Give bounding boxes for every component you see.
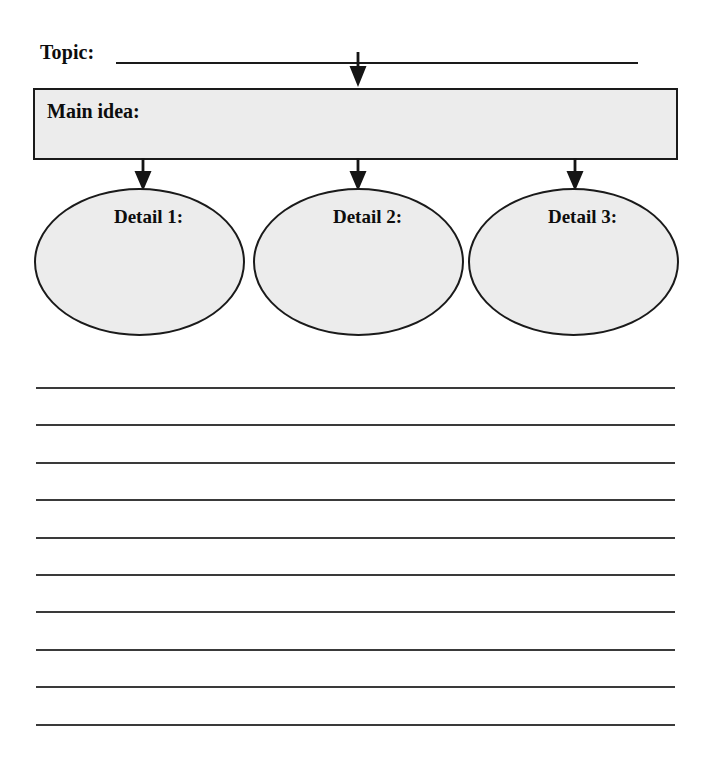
arrow-main-idea-to-detail-2 <box>343 158 373 192</box>
writing-line[interactable] <box>36 387 675 389</box>
writing-line[interactable] <box>36 499 675 501</box>
writing-line[interactable] <box>36 724 675 726</box>
detail-ellipse-3[interactable]: Detail 3: <box>468 188 679 336</box>
arrow-main-idea-to-detail-1 <box>128 158 158 192</box>
writing-line[interactable] <box>36 686 675 688</box>
detail-label-1: Detail 1: <box>36 206 243 228</box>
worksheet-page: Topic: Main idea: Detail 1: Detail 2: De… <box>0 0 712 762</box>
topic-label: Topic: <box>40 41 94 64</box>
writing-line[interactable] <box>36 611 675 613</box>
detail-label-3: Detail 3: <box>470 206 677 228</box>
writing-line[interactable] <box>36 649 675 651</box>
writing-line[interactable] <box>36 462 675 464</box>
detail-ellipse-1[interactable]: Detail 1: <box>34 188 245 336</box>
topic-input-line[interactable] <box>116 62 638 64</box>
writing-line[interactable] <box>36 424 675 426</box>
arrow-topic-to-main-idea <box>343 52 373 88</box>
detail-label-2: Detail 2: <box>255 206 462 228</box>
main-idea-box[interactable]: Main idea: <box>33 88 678 160</box>
main-idea-label: Main idea: <box>47 100 140 123</box>
writing-line[interactable] <box>36 574 675 576</box>
arrow-main-idea-to-detail-3 <box>560 158 590 192</box>
writing-line[interactable] <box>36 537 675 539</box>
detail-ellipse-2[interactable]: Detail 2: <box>253 188 464 336</box>
